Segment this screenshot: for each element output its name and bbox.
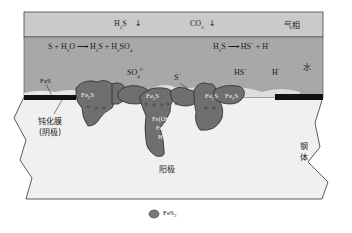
legend-base: FeS (163, 209, 174, 217)
nodule-base: Fe (225, 92, 232, 100)
nodule-rest: S (155, 92, 159, 100)
co2-base: CO (190, 19, 201, 28)
ion-sup: − (178, 72, 181, 77)
passive-film (275, 94, 323, 100)
h-charge: + (163, 132, 166, 137)
ion-sup: − (244, 67, 247, 72)
sulfate-ion-label: SO42− (127, 68, 145, 77)
passive-film-label-line1: 钝化膜 (38, 116, 62, 127)
gas-phase-label: 气相 (284, 21, 300, 30)
ion-sup: + (278, 67, 281, 72)
h2s-gas-label: H2S ↓ (114, 19, 141, 28)
reaction-part: SO (120, 42, 130, 51)
fes-label: FeS (40, 77, 51, 86)
h2s-rest: S (122, 19, 126, 28)
reaction-h2s-dissociation: H2S ⟶ HS− + H+ (213, 42, 271, 51)
steel-label-line1: 钢 (300, 141, 308, 152)
reaction-sub: 4 (130, 48, 133, 53)
pit-species-feoh: Fe(OH) (152, 115, 172, 122)
co2-sub: 2 (201, 25, 204, 30)
fe-charge: 2+ (163, 123, 168, 128)
legend-fes2-label: FeS2 (163, 209, 176, 218)
steel-body (14, 97, 328, 199)
pit-species-hplus: H+ (158, 133, 165, 140)
passive-film-label-line2: (阴极) (38, 127, 62, 138)
down-arrow-icon: ↓ (135, 19, 142, 28)
reaction-part: S + H (48, 42, 67, 51)
ion-sup: 2− (140, 67, 145, 72)
nodule-base: Fe (205, 92, 212, 100)
legend-sub: 2 (174, 213, 177, 218)
legend-fes2-swatch (149, 210, 159, 218)
ion-base: HS (234, 68, 244, 77)
fes2-nodule-label: Fe2S (81, 91, 94, 99)
ion-base: SO (127, 68, 137, 77)
ion-sub: 4 (137, 74, 140, 79)
co2-gas-label: CO2 ↓ (190, 19, 215, 28)
reaction-part: + H (254, 42, 268, 51)
sulfide-ion-label: S− (174, 73, 181, 82)
down-arrow-icon: ↓ (209, 19, 216, 28)
steel-body-label: 钢 体 (300, 141, 308, 163)
reaction-sulfur-hydrolysis: S + H2O ⟶ H2S + H2SO4 (48, 42, 132, 51)
reaction-part: S + H (98, 42, 117, 51)
reaction-part: S ⟶ HS (221, 42, 251, 51)
passive-film (24, 95, 76, 100)
fes2-nodule-label: Fe2S (205, 92, 218, 100)
pit-species-fe2plus: Fe2+ (156, 124, 167, 131)
passive-film-label: 钝化膜 (阴极) (38, 116, 62, 138)
anode-label: 阳极 (159, 165, 175, 174)
nodule-base: Fe (146, 92, 153, 100)
fes2-nodule-label: Fe2S (225, 92, 238, 100)
gas-phase-layer (24, 12, 323, 37)
water-phase-label: 水 (303, 63, 311, 72)
nodule-rest: S (214, 92, 218, 100)
steel-label-line2: 体 (300, 152, 308, 163)
nodule-base: Fe (81, 91, 88, 99)
hydrogen-ion-label: H+ (272, 68, 281, 77)
fes2-nodule-label: Fe2S (146, 92, 159, 100)
bisulfide-ion-label: HS− (234, 68, 247, 77)
nodule-rest: S (234, 92, 238, 100)
reaction-sup: + (268, 41, 271, 46)
reaction-part: O ⟶ H (69, 42, 96, 51)
nodule-rest: S (90, 91, 94, 99)
